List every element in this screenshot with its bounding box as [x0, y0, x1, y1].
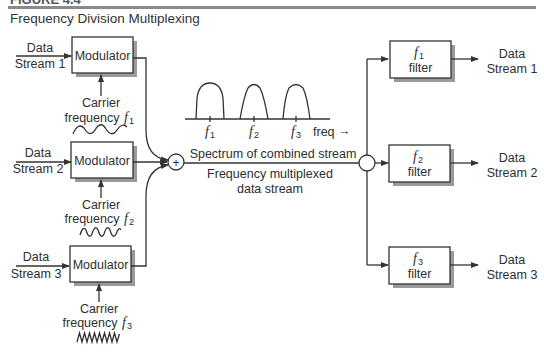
combiner-summing-node: +: [168, 154, 184, 170]
spectrum-plot: f1 f2 f3 freq → Spectrum of combined str…: [185, 83, 356, 161]
spectrum-band-f3: [283, 85, 310, 120]
filter-2-label: filter: [408, 165, 432, 179]
input-stream-2: Data Stream 2: [13, 146, 71, 176]
spectrum-band-f1: [196, 83, 224, 119]
carrier-wave-3-icon: [77, 333, 120, 342]
spectrum-tick-f2: f2: [249, 124, 259, 140]
multiplexed-label-line1: Frequency multiplexed: [207, 167, 333, 181]
carrier-1-freq: f1: [124, 110, 134, 126]
input-1-line2: Stream 1: [15, 57, 66, 71]
carrier-3-line1: Carrier: [80, 302, 118, 316]
mod1-to-combiner-line: [133, 58, 168, 160]
modulator-1-label: Modulator: [75, 49, 131, 63]
carrier-1-line1: Carrier: [82, 96, 120, 110]
output-1-line1: Data: [499, 47, 525, 61]
output-2-line1: Data: [499, 151, 525, 165]
output-3-line2: Stream 3: [487, 268, 538, 282]
multiplexed-label-line2: data stream: [237, 182, 303, 196]
modulator-1: Modulator Carrier frequency f1: [65, 37, 137, 134]
plus-icon: +: [172, 156, 179, 170]
carrier-2-freq: f2: [124, 211, 134, 227]
input-stream-3: Data Stream 3: [11, 250, 69, 281]
carrier-wave-1-icon: [73, 125, 127, 134]
output-2-line2: Stream 2: [487, 166, 538, 180]
input-3-line1: Data: [23, 250, 49, 264]
carrier-2-line1: Carrier: [82, 198, 120, 212]
modulator-3-label: Modulator: [73, 258, 129, 272]
input-2-line1: Data: [25, 146, 51, 160]
spectrum-axis-label: freq: [313, 125, 335, 139]
fdm-diagram: Data Stream 1 Modulator Carrier frequenc…: [0, 0, 544, 357]
input-1-line1: Data: [27, 41, 53, 55]
modulator-2: Modulator Carrier frequency f2: [65, 142, 137, 236]
input-stream-1: Data Stream 1: [15, 41, 71, 71]
output-3-line1: Data: [499, 253, 525, 267]
carrier-3-line2: frequency: [63, 316, 119, 330]
carrier-2-line2: frequency: [65, 212, 121, 226]
filter-3: f3 filter: [389, 247, 478, 288]
input-2-line2: Stream 2: [13, 162, 64, 176]
filter-1: f1 filter: [390, 41, 478, 82]
filter-2: f2 filter: [389, 145, 478, 186]
spectrum-caption: Spectrum of combined stream: [190, 147, 357, 161]
carrier-wave-2-icon: [80, 228, 121, 237]
carrier-1-line2: frequency: [65, 111, 121, 125]
filter-3-label: filter: [408, 267, 432, 281]
arrow-right-icon: →: [338, 124, 351, 138]
spectrum-tick-f1: f1: [205, 124, 215, 140]
modulator-3: Modulator Carrier frequency f3: [63, 246, 135, 342]
output-1-line2: Stream 1: [487, 62, 538, 76]
carrier-3-freq: f3: [122, 315, 132, 331]
modulator-2-label: Modulator: [74, 154, 130, 168]
filter-1-label: filter: [409, 61, 433, 75]
spectrum-band-f2: [240, 85, 268, 120]
input-3-line2: Stream 3: [11, 267, 62, 281]
spectrum-tick-f3: f3: [291, 124, 301, 140]
splitter-node: [359, 155, 375, 171]
